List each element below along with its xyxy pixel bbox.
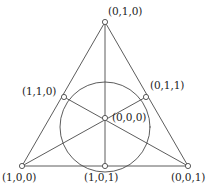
node-bottom-right [185, 163, 190, 168]
node-label-top: (0,1,0) [108, 6, 142, 17]
node-label-bottom-mid: (1,0,1) [84, 172, 118, 183]
median-bottom-right-to-left-mid [64, 97, 188, 166]
node-label-bottom-left: (1,0,0) [2, 172, 36, 183]
node-label-bottom-right: (0,0,1) [171, 172, 205, 183]
node-right-mid [143, 94, 148, 99]
node-top [102, 19, 107, 24]
node-bottom-left [19, 163, 24, 168]
node-left-mid [61, 94, 66, 99]
node-bottom-mid [102, 163, 107, 168]
fano-plane-diagram: (0,1,0) (1,1,0) (0,1,1) (0,0,0) (1,0,0) … [0, 0, 219, 192]
node-label-center: (0,0,0) [112, 112, 146, 123]
node-center [102, 115, 107, 120]
median-bottom-left-to-right-mid [22, 97, 146, 166]
node-label-right-mid: (0,1,1) [150, 80, 184, 91]
node-label-left-mid: (1,1,0) [22, 86, 56, 97]
